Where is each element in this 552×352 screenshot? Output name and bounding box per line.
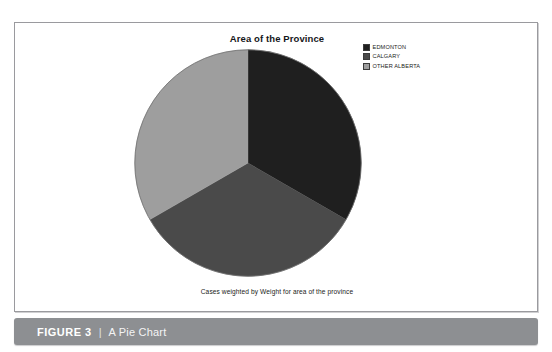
pie-chart bbox=[134, 49, 362, 277]
legend-swatch-icon bbox=[363, 63, 370, 70]
pie-svg bbox=[134, 49, 362, 277]
cropped-page-text bbox=[0, 0, 552, 13]
legend-item-calgary[interactable]: CALGARY bbox=[363, 53, 483, 61]
legend-label: OTHER ALBERTA bbox=[373, 63, 421, 70]
legend-label: CALGARY bbox=[373, 53, 401, 60]
figure-number: FIGURE 3 bbox=[37, 326, 92, 338]
figure-caption-inner: FIGURE 3 | A Pie Chart bbox=[14, 326, 166, 338]
figure-caption-text: A Pie Chart bbox=[109, 326, 167, 338]
figure-separator: | bbox=[99, 326, 102, 338]
chart-annotation: Cases weighted by Weight for area of the… bbox=[15, 288, 539, 295]
legend-swatch-icon bbox=[363, 44, 370, 51]
legend-label: EDMONTON bbox=[373, 44, 407, 51]
chart-panel: Area of the Province EDMONTON CALGARY OT… bbox=[14, 22, 538, 312]
legend-item-other-alberta[interactable]: OTHER ALBERTA bbox=[363, 62, 483, 70]
legend-swatch-icon bbox=[363, 53, 370, 60]
chart-legend: EDMONTON CALGARY OTHER ALBERTA bbox=[363, 43, 483, 72]
legend-item-edmonton[interactable]: EDMONTON bbox=[363, 43, 483, 51]
figure-caption-bar: FIGURE 3 | A Pie Chart bbox=[14, 318, 538, 345]
